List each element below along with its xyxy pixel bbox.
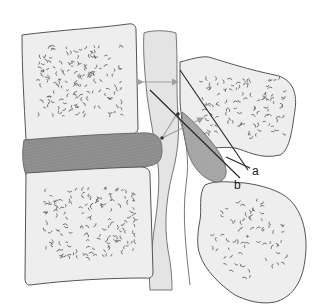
label-a: a [252, 164, 259, 178]
pointer-line-a-tail [226, 157, 250, 168]
spine-diagram: a b [0, 0, 323, 305]
junction-point-2 [160, 136, 164, 140]
label-b: b [234, 178, 241, 192]
junction-point-1 [176, 112, 180, 116]
upper-vertebral-body [22, 24, 138, 140]
lower-vertebral-body [25, 167, 153, 285]
lower-facet [198, 182, 306, 303]
